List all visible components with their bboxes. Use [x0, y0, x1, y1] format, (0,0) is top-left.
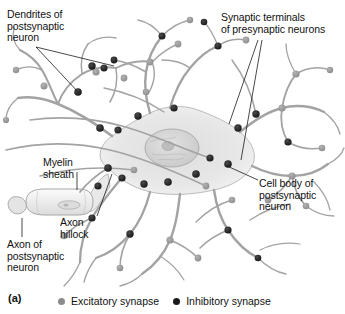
schwann-cell-nucleus	[58, 201, 80, 209]
schwann-nucleolus	[64, 203, 69, 206]
inhibitory-terminal	[96, 124, 104, 132]
inhibitory-terminal	[140, 180, 147, 187]
legend: Excitatory synapse Inhibitory synapse	[58, 292, 345, 310]
excitatory-terminal	[147, 59, 154, 66]
inhibitory-terminal	[94, 182, 101, 189]
inhibitory-terminal	[255, 255, 262, 262]
label-synaptic-terminals-of-presynaptic-neurons: Synaptic terminals of presynaptic neuron…	[221, 12, 345, 35]
inhibitory-terminal	[224, 226, 231, 233]
neuron-synapse-figure: Dendrites of postsynaptic neuron Synapti…	[0, 0, 345, 314]
excitatory-terminal	[3, 117, 9, 123]
inhibitory-terminal	[88, 62, 95, 69]
inhibitory-terminal	[114, 126, 121, 133]
inhibitory-terminal	[104, 164, 112, 172]
excitatory-terminal	[41, 83, 48, 90]
excitatory-terminal	[13, 67, 19, 73]
excitatory-terminal	[195, 255, 202, 262]
panel-letter: (a)	[8, 292, 21, 304]
excitatory-terminal	[278, 104, 285, 111]
excitatory-terminal	[203, 183, 210, 190]
inhibitory-terminal	[201, 19, 208, 26]
excitatory-terminal	[187, 17, 193, 23]
legend-item-inhibitory: Inhibitory synapse	[173, 295, 271, 307]
legend-item-excitatory: Excitatory synapse	[58, 295, 159, 307]
inhibitory-terminal	[111, 57, 118, 64]
excitatory-terminal	[243, 37, 250, 44]
inhibitory-terminal	[192, 170, 200, 178]
inhibitory-terminal	[164, 178, 172, 186]
inhibitory-terminal	[126, 230, 133, 237]
inhibitory-terminal	[134, 112, 141, 119]
inhibitory-terminal	[214, 42, 221, 49]
label-axon-of-postsynaptic-neuron: Axon of postsynaptic neuron	[7, 239, 87, 274]
inhibitory-terminal	[252, 110, 259, 117]
label-axon-hillock: Axon hillock	[60, 217, 110, 240]
inhibitory-terminal	[284, 138, 291, 145]
excitatory-terminal	[327, 67, 333, 73]
excitatory-terminal	[292, 70, 299, 77]
legend-label-inhibitory: Inhibitory synapse	[186, 295, 271, 307]
inhibitory-terminal	[118, 174, 125, 181]
excitatory-synapse-dot-icon	[58, 298, 65, 305]
inhibitory-terminal	[206, 154, 213, 161]
inhibitory-terminal	[170, 104, 177, 111]
myelin-sheath	[26, 189, 93, 215]
excitatory-terminal	[143, 89, 150, 96]
excitatory-terminal	[92, 68, 99, 75]
legend-label-excitatory: Excitatory synapse	[71, 295, 159, 307]
inhibitory-terminal	[101, 65, 108, 72]
excitatory-terminal	[229, 197, 236, 204]
label-myelin-sheath: Myelin sheath	[43, 157, 105, 180]
axon-terminal-end	[8, 197, 26, 214]
excitatory-terminal	[175, 41, 182, 48]
inhibitory-terminal	[159, 33, 166, 40]
excitatory-terminal	[121, 75, 128, 82]
label-dendrites-of-postsynaptic-neuron: Dendrites of postsynaptic neuron	[7, 9, 101, 44]
excitatory-terminal	[117, 265, 124, 272]
inhibitory-synapse-dot-icon	[173, 298, 180, 305]
excitatory-terminal	[166, 236, 173, 243]
excitatory-terminal	[131, 167, 138, 174]
label-cell-body-of-postsynaptic-neuron: Cell body of postsynaptic neuron	[259, 178, 345, 213]
inhibitory-terminal	[234, 124, 241, 131]
leader-dendrites-a	[36, 47, 114, 66]
excitatory-terminal	[319, 145, 326, 152]
